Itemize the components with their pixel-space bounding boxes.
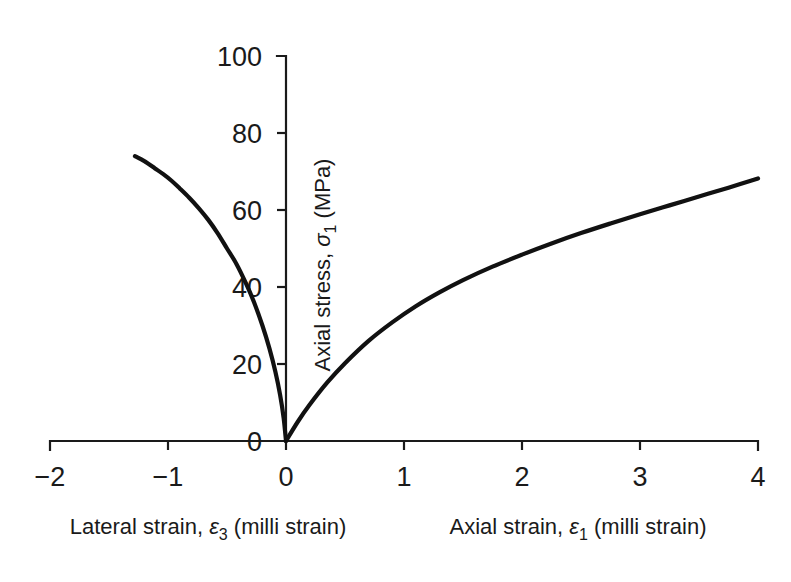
x-right-title-main: Axial strain, [450,514,570,539]
svg-text:Lateral strain, ε3 (milli stra: Lateral strain, ε3 (milli strain) [70,514,347,543]
x-tick-label: 4 [750,462,765,492]
y-tick-label: 20 [232,350,262,380]
y-axis-title-main: Axial stress, [310,247,335,372]
axes-group [50,56,758,450]
y-axis-title-symbol: σ [310,233,335,247]
x-axis-ticks [168,441,640,450]
y-axis-tick-labels: 020406080100 [217,42,262,457]
x-tick-label: 1 [396,462,411,492]
curve-axial-strain-curve [286,178,758,441]
x-axis-left-title: Lateral strain, ε3 (milli strain) [70,514,347,543]
y-tick-label: 0 [247,427,262,457]
y-axis-title: Axial stress, σ1 (MPa) [310,159,339,372]
x-right-title-subscript: 1 [579,526,588,543]
stress-strain-figure: −2−101234 020406080100 Axial stress, σ1 … [0,0,791,582]
x-tick-label: −2 [35,462,66,492]
x-right-title-symbol: ε [569,514,579,539]
svg-text:Axial stress, σ1 (MPa): Axial stress, σ1 (MPa) [310,159,339,372]
x-axis-right-title: Axial strain, ε1 (milli strain) [450,514,707,543]
svg-text:Axial strain, ε1 (milli strain: Axial strain, ε1 (milli strain) [450,514,707,543]
x-left-title-unit: (milli strain) [228,514,347,539]
chart-canvas: −2−101234 020406080100 Axial stress, σ1 … [0,0,791,582]
y-tick-label: 100 [217,42,262,72]
x-tick-label: 3 [632,462,647,492]
y-axis-title-subscript: 1 [322,224,339,233]
y-tick-label: 80 [232,119,262,149]
x-axis-tick-labels: −2−101234 [35,462,766,492]
data-curves [135,156,758,441]
y-tick-label: 60 [232,196,262,226]
x-tick-label: 2 [514,462,529,492]
x-right-title-unit: (milli strain) [588,514,707,539]
y-axis-ticks [277,133,286,364]
x-tick-label: 0 [278,462,293,492]
x-left-title-symbol: ε [209,514,219,539]
curve-lateral-strain-curve [135,156,286,441]
x-left-title-main: Lateral strain, [70,514,209,539]
y-axis-title-unit: (MPa) [310,159,335,225]
x-tick-label: −1 [153,462,184,492]
x-left-title-subscript: 3 [219,526,228,543]
